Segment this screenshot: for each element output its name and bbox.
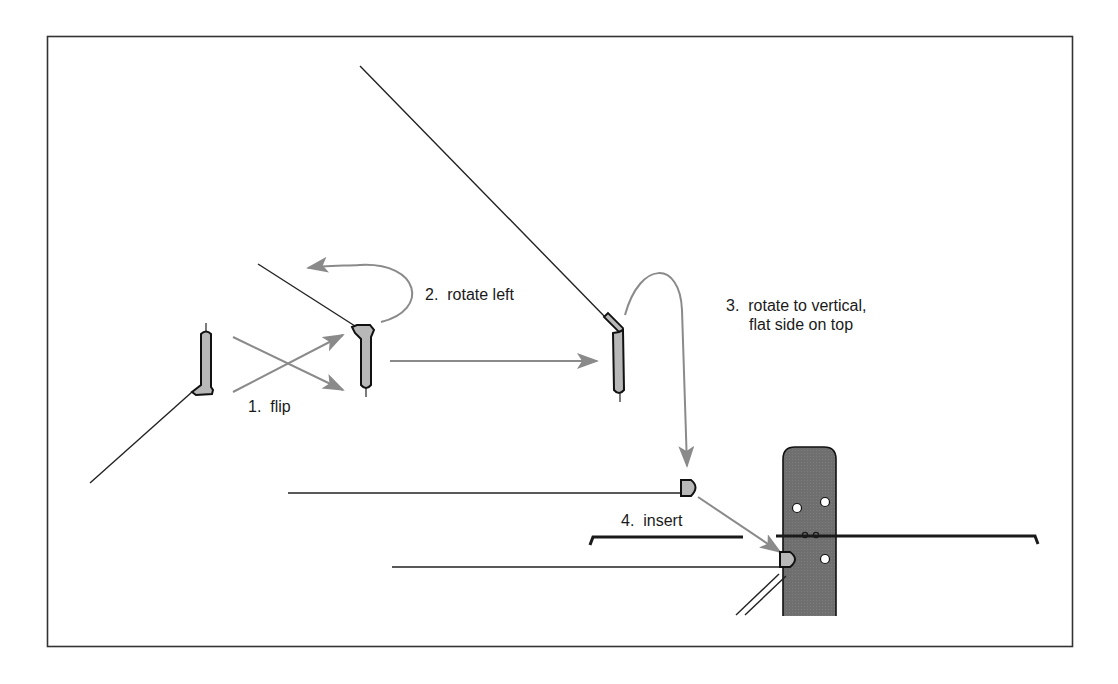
rotate-vertical-arrow xyxy=(625,273,687,466)
step-2-label: 2. rotate left xyxy=(425,286,514,304)
part-inserted xyxy=(392,552,795,615)
rotate-left-arrow xyxy=(308,265,412,322)
post xyxy=(783,447,836,616)
part-initial xyxy=(90,323,213,483)
assembly-diagram: 1. flip 2. rotate left 3. rotate to vert… xyxy=(0,0,1118,684)
step-4-label: 4. insert xyxy=(621,512,682,530)
diagram-canvas xyxy=(0,0,1118,684)
post-hole xyxy=(821,498,830,507)
step-1-label: 1. flip xyxy=(248,398,291,416)
post-hole xyxy=(821,555,830,564)
insert-arrow xyxy=(698,497,780,552)
step-3-label-line1: 3. rotate to vertical, xyxy=(726,297,867,315)
part-rotated xyxy=(360,66,624,402)
step-3-label-line2: flat side on top xyxy=(749,316,853,334)
part-end-view xyxy=(288,480,696,496)
flip-arrows xyxy=(233,335,343,392)
post-hole xyxy=(793,504,802,513)
